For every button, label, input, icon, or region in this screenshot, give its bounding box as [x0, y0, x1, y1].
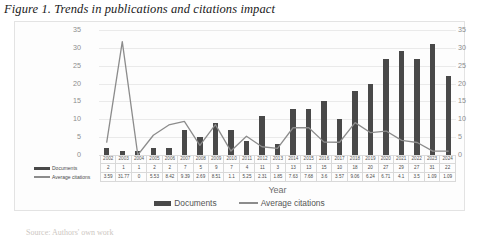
- y-axis-tick: 30: [73, 44, 81, 51]
- table-row-documents: Documents2112275974113131315101820272927…: [33, 164, 456, 173]
- table-cell: 1.09: [424, 173, 439, 182]
- y-axis-tick: 35: [73, 26, 81, 33]
- chart-frame: 05101520253035 05101520253035 2002200320…: [14, 21, 465, 211]
- table-cell: 18: [347, 164, 362, 173]
- y-axis-tick: 20: [458, 80, 466, 87]
- y-axis-tick: 15: [73, 98, 81, 105]
- y-axis-tick: 0: [458, 151, 462, 158]
- table-cell: 2.31: [255, 173, 270, 182]
- figure-title: Figure 1. Trends in publications and cit…: [4, 2, 275, 17]
- table-cell: 2021: [394, 155, 409, 164]
- table-cell: 2014: [286, 155, 301, 164]
- table-cell: 2012: [255, 155, 270, 164]
- table-cell: 9.06: [347, 173, 362, 182]
- table-cell: 29: [394, 164, 409, 173]
- x-axis-title: Year: [99, 185, 456, 195]
- table-row-label: Average citations: [33, 173, 101, 182]
- table-cell: 3.5: [409, 173, 424, 182]
- table-cell: 6.71: [378, 173, 393, 182]
- chart-legend: Documents Average citations: [15, 198, 464, 208]
- table-cell: 2022: [409, 155, 424, 164]
- y-axis-tick: 25: [73, 62, 81, 69]
- table-cell: 1: [116, 164, 131, 173]
- y-axis-tick: 35: [458, 26, 466, 33]
- table-cell: 2003: [116, 155, 131, 164]
- table-cell: 2009: [208, 155, 223, 164]
- table-cell: 2006: [162, 155, 177, 164]
- table-cell: 7: [224, 164, 239, 173]
- legend-label-documents: Documents: [174, 198, 216, 208]
- table-cell: 7.68: [301, 173, 316, 182]
- table-cell: 2: [147, 164, 162, 173]
- table-cell: 2008: [193, 155, 208, 164]
- y-axis-tick: 20: [73, 80, 81, 87]
- table-cell: 2005: [147, 155, 162, 164]
- table-cell: 4: [239, 164, 254, 173]
- table-cell: 3.57: [332, 173, 347, 182]
- table-cell: 9: [208, 164, 223, 173]
- table-cell: 1.1: [224, 173, 239, 182]
- table-cell: 0: [131, 173, 146, 182]
- source-note: Source: Authors' own work: [26, 228, 113, 237]
- y-axis-tick: 10: [73, 116, 81, 123]
- table-cell: 1.85: [270, 173, 285, 182]
- table-row-years: 2002200320042005200620072008200920102011…: [33, 155, 456, 164]
- table-cell: 2.69: [193, 173, 208, 182]
- figure-container: Figure 1. Trends in publications and cit…: [0, 0, 479, 245]
- table-cell: 7: [178, 164, 193, 173]
- table-cell: 2018: [347, 155, 362, 164]
- table-cell: 4.1: [394, 173, 409, 182]
- y-axis-tick: 25: [458, 62, 466, 69]
- table-cell: 13: [286, 164, 301, 173]
- table-cell: 5.25: [239, 173, 254, 182]
- table-cell: 8.51: [208, 173, 223, 182]
- table-cell: 2023: [424, 155, 439, 164]
- table-cell: 11: [255, 164, 270, 173]
- table-cell: 2: [162, 164, 177, 173]
- table-cell: 10: [332, 164, 347, 173]
- bar-swatch-icon: [154, 201, 171, 206]
- table-cell: 7.63: [286, 173, 301, 182]
- table-cell: 2002: [101, 155, 116, 164]
- table-cell: 2016: [316, 155, 331, 164]
- table-cell: 31: [424, 164, 439, 173]
- table-row-label: Documents: [33, 164, 101, 173]
- table-cell: 2024: [440, 155, 456, 164]
- table-cell: 1: [131, 164, 146, 173]
- plot-area: [99, 30, 456, 155]
- table-row-label: [33, 155, 101, 164]
- table-cell: 27: [378, 164, 393, 173]
- line-swatch-icon: [239, 202, 258, 204]
- table-row-average-citations: Average citations3.5931.7705.538.429.392…: [33, 173, 456, 182]
- table-cell: 2011: [239, 155, 254, 164]
- y-axis-tick: 15: [458, 98, 466, 105]
- table-cell: 9.39: [178, 173, 193, 182]
- table-cell: 2017: [332, 155, 347, 164]
- table-cell: 2013: [270, 155, 285, 164]
- y-axis-tick: 5: [77, 134, 81, 141]
- y-axis-tick: 10: [458, 116, 466, 123]
- table-cell: 3: [270, 164, 285, 173]
- legend-item-average-citations: Average citations: [239, 198, 325, 208]
- y-axis-tick: 30: [458, 44, 466, 51]
- table-cell: 3.59: [101, 173, 116, 182]
- table-cell: 8.42: [162, 173, 177, 182]
- table-cell: 5.53: [147, 173, 162, 182]
- table-cell: 2007: [178, 155, 193, 164]
- table-cell: 2020: [378, 155, 393, 164]
- table-cell: 5: [193, 164, 208, 173]
- table-cell: 6.24: [363, 173, 378, 182]
- table-cell: 13: [301, 164, 316, 173]
- table-cell: 3.6: [316, 173, 331, 182]
- table-cell: 31.77: [116, 173, 131, 182]
- table-cell: 2: [101, 164, 116, 173]
- table-cell: 2015: [301, 155, 316, 164]
- data-table: 2002200320042005200620072008200920102011…: [33, 155, 456, 182]
- y-axis-tick: 5: [458, 134, 462, 141]
- table-cell: 2004: [131, 155, 146, 164]
- table-cell: 27: [409, 164, 424, 173]
- table-cell: 2019: [363, 155, 378, 164]
- table-cell: 15: [316, 164, 331, 173]
- table-cell: 1.09: [440, 173, 456, 182]
- table-cell: 20: [363, 164, 378, 173]
